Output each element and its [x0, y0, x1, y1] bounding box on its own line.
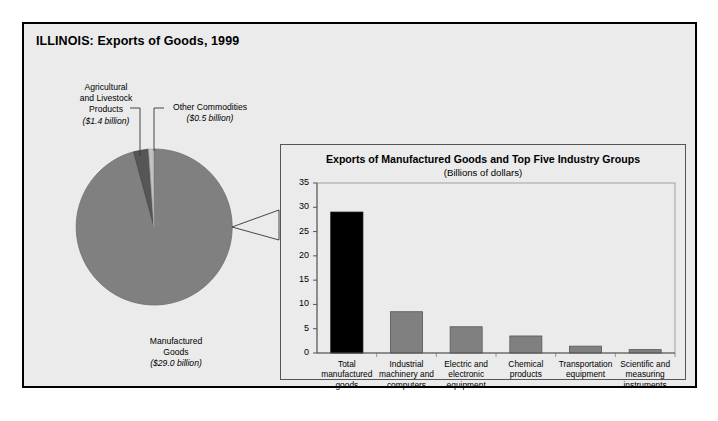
y-axis-tick-label: 30: [283, 201, 309, 211]
pie-label-manufactured: Manufactured Goods ($29.0 billion): [108, 336, 244, 370]
pie-label-manufactured-line2: Goods: [163, 347, 188, 357]
x-axis-tick-label: Industrialmachinery andcomputers: [377, 359, 437, 390]
x-axis-tick-label: Chemicalproducts: [496, 359, 556, 380]
pie-label-other-amount: ($0.5 billion): [187, 113, 234, 123]
pie-label-agricultural-line1: Agricultural: [85, 82, 128, 92]
x-axis-tick-label-line: Transportation: [559, 359, 613, 369]
pie-label-manufactured-amount: ($29.0 billion): [150, 358, 202, 368]
y-axis-tick-label: 10: [283, 298, 309, 308]
pie-label-agricultural-line2: and Livestock: [80, 93, 133, 103]
pie-label-other-commodities: Other Commodities ($0.5 billion): [156, 102, 264, 124]
x-axis-tick-label-line: Electric and: [444, 359, 488, 369]
pie-chart-graphic: [24, 24, 299, 388]
bar: [331, 212, 363, 353]
y-axis-tick-label: 20: [283, 250, 309, 260]
x-axis-tick-label-line: measuring: [626, 369, 665, 379]
x-axis-tick-label: Electric andelectronicequipment: [436, 359, 496, 390]
x-axis-tick-label: Transportationequipment: [556, 359, 616, 380]
bar: [450, 327, 482, 353]
x-axis-tick-label-line: electronic: [448, 369, 484, 379]
x-axis-tick-label-line: computers: [387, 380, 426, 390]
x-axis-tick-label-line: Total: [338, 359, 356, 369]
bar-series: [331, 212, 675, 357]
bar: [570, 346, 602, 353]
y-axis-ticks: [313, 183, 317, 353]
pie-label-agricultural-amount: ($1.4 billion): [83, 116, 130, 126]
pie-label-manufactured-line1: Manufactured: [150, 336, 203, 346]
pie-label-agricultural-line3: Products: [89, 104, 123, 114]
x-axis-tick-label: Totalmanufacturedgoods: [317, 359, 377, 390]
x-axis-tick-label-line: products: [510, 369, 542, 379]
plot-area-frame: [317, 183, 675, 353]
pie-chart: Agricultural and Livestock Products ($1.…: [24, 24, 299, 388]
pie-label-agricultural: Agricultural and Livestock Products ($1.…: [60, 82, 152, 127]
x-axis-tick-label-line: equipment: [566, 369, 605, 379]
bar-chart-panel: Exports of Manufactured Goods and Top Fi…: [280, 144, 686, 380]
bar-chart-graphic: [281, 145, 687, 381]
x-axis-tick-label-line: Scientific and: [620, 359, 670, 369]
bar: [391, 312, 423, 353]
x-axis-tick-label-line: manufactured: [321, 369, 372, 379]
y-axis-tick-label: 25: [283, 226, 309, 236]
pie-to-bar-connector: [232, 210, 279, 240]
y-axis-tick-label: 35: [283, 177, 309, 187]
bar: [510, 336, 542, 353]
x-axis-tick-label-line: machinery and: [379, 369, 434, 379]
pie-label-other-line1: Other Commodities: [173, 102, 247, 112]
x-axis-tick-label: Scientific andmeasuringinstruments: [615, 359, 675, 390]
x-axis-tick-label-line: goods: [335, 380, 358, 390]
figure-frame: ILLINOIS: Exports of Goods, 1999 Agricul…: [22, 22, 697, 388]
x-axis-tick-label-line: Industrial: [389, 359, 423, 369]
y-axis-tick-label: 0: [283, 347, 309, 357]
x-axis-tick-label-line: instruments: [624, 380, 667, 390]
x-axis-tick-label-line: Chemical: [508, 359, 543, 369]
y-axis-tick-label: 5: [283, 323, 309, 333]
y-axis-tick-label: 15: [283, 274, 309, 284]
x-axis-tick-label-line: equipment: [447, 380, 486, 390]
